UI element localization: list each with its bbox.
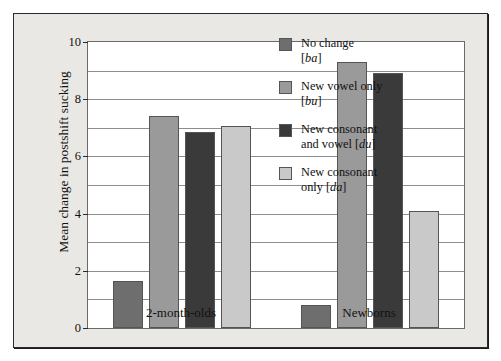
legend-swatch (279, 124, 292, 137)
y-axis-tick-mark (83, 271, 88, 272)
legend-swatch (279, 81, 292, 94)
y-axis-tick-mark (83, 99, 88, 100)
legend-item[interactable]: No change[ba] (279, 36, 391, 70)
y-axis-title: Mean change in postshift sucking (56, 42, 72, 282)
legend-label-line1: New consonant (301, 165, 391, 180)
legend-label-line2: only [da] (301, 180, 391, 195)
bar (221, 126, 251, 328)
legend-label: New consonantand vowel [du] (301, 122, 391, 152)
y-axis-tick-mark (83, 42, 88, 43)
legend-label-line2: and vowel [du] (301, 137, 391, 152)
legend-label-line1: New vowel only (301, 79, 391, 94)
legend-swatch (279, 167, 292, 180)
legend: No change[ba]New vowel only[bu]New conso… (279, 36, 391, 208)
legend-item[interactable]: New vowel only[bu] (279, 79, 391, 113)
legend-swatch (279, 38, 292, 51)
legend-label-line1: New consonant (301, 122, 391, 137)
bar-series-container (88, 42, 464, 328)
y-axis-tick-label: 2 (75, 263, 81, 278)
y-axis-tick-label: 10 (69, 35, 82, 50)
bar (185, 132, 215, 328)
y-axis-tick-mark (83, 214, 88, 215)
legend-label-line2: [ba] (301, 51, 391, 66)
figure-panel: Mean change in postshift sucking 0246810… (13, 13, 488, 348)
y-axis-tick-label: 4 (75, 206, 81, 221)
legend-label-line2: [bu] (301, 94, 391, 109)
legend-label: No change[ba] (301, 36, 391, 66)
bar (113, 281, 143, 328)
legend-item[interactable]: New consonantand vowel [du] (279, 122, 391, 156)
y-axis-tick-label: 8 (75, 92, 81, 107)
bar (409, 211, 439, 328)
x-axis-category-label: Newborns (342, 305, 395, 321)
legend-label: New vowel only[bu] (301, 79, 391, 109)
legend-label: New consonantonly [da] (301, 165, 391, 195)
y-axis-tick-mark (83, 156, 88, 157)
bar (149, 116, 179, 328)
y-axis-tick-label: 0 (75, 321, 81, 336)
bar (301, 305, 331, 328)
y-axis-tick-label: 6 (75, 149, 81, 164)
legend-item[interactable]: New consonantonly [da] (279, 165, 391, 199)
legend-label-line1: No change (301, 36, 391, 51)
bar-group (88, 42, 276, 328)
x-axis-category-label: 2-month-olds (146, 305, 216, 321)
y-axis-tick-mark (83, 328, 88, 329)
plot-area: 0246810 (87, 41, 465, 329)
